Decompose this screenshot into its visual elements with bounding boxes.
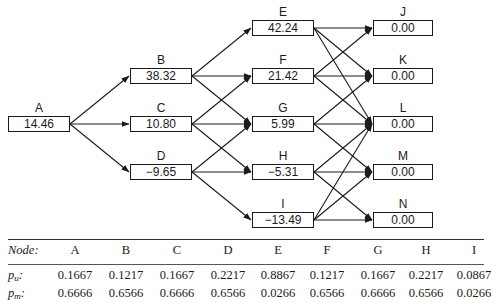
node-value: 0.00 (373, 20, 433, 36)
node-value: 0.00 (373, 212, 433, 228)
node-n: N 0.00 (373, 212, 433, 228)
node-d: D −9.65 (130, 164, 192, 180)
table-cell: 0.0266 (449, 286, 496, 301)
table-column-header: E (253, 243, 303, 258)
node-e: E 42.24 (252, 20, 314, 36)
table-divider (8, 264, 484, 265)
table-cell: 0.8867 (253, 268, 303, 283)
node-value: −13.49 (252, 212, 314, 228)
node-b: B 38.32 (130, 68, 192, 84)
node-value: 0.00 (373, 116, 433, 132)
table-cell: 0.6666 (353, 286, 403, 301)
table-cell: 0.0266 (253, 286, 303, 301)
node-label: F (252, 54, 314, 67)
node-label: M (373, 150, 433, 163)
node-label: B (130, 54, 192, 67)
table-cell: 0.6566 (401, 286, 451, 301)
node-l: L 0.00 (373, 116, 433, 132)
node-c: C 10.80 (130, 116, 192, 132)
node-label: C (130, 102, 192, 115)
table-cell: 0.1667 (50, 268, 100, 283)
node-label: I (252, 198, 314, 211)
node-value: 42.24 (252, 20, 314, 36)
table-row-pu: pu: 0.1667 0.1217 0.1667 0.2217 0.8867 0… (8, 268, 484, 285)
table-column-header: B (101, 243, 151, 258)
node-value: 10.80 (130, 116, 192, 132)
table-cell: 0.6566 (101, 286, 151, 301)
table-column-header: A (50, 243, 100, 258)
edge-arrow-d-i (192, 172, 251, 220)
node-g: G 5.99 (252, 116, 314, 132)
node-label: G (252, 102, 314, 115)
node-label: L (373, 102, 433, 115)
node-label: D (130, 150, 192, 163)
edge-arrow-a-b (70, 76, 129, 124)
node-h: H −5.31 (252, 164, 314, 180)
edge-arrow-a-d (70, 124, 129, 172)
table-cell: 0.1217 (101, 268, 151, 283)
table-cell: 0.6666 (152, 286, 202, 301)
node-a: A 14.46 (8, 116, 70, 132)
node-value: 0.00 (373, 164, 433, 180)
table-row-pm: pm: 0.6666 0.6566 0.6666 0.6566 0.0266 0… (8, 286, 484, 303)
node-label: J (373, 6, 433, 19)
table-cell: 0.1667 (353, 268, 403, 283)
edge-arrow-b-e (192, 28, 251, 76)
node-label: N (373, 198, 433, 211)
table-cell: 0.6566 (203, 286, 253, 301)
node-value: −9.65 (130, 164, 192, 180)
table-column-header: D (203, 243, 253, 258)
node-j: J 0.00 (373, 20, 433, 36)
row-label-pm: pm: (8, 286, 25, 301)
table-column-header: I (449, 243, 496, 258)
node-k: K 0.00 (373, 68, 433, 84)
trinomial-tree-diagram: A 14.46 B 38.32 C 10.80 D −9.65 E 42.24 … (0, 0, 486, 236)
table-column-header: G (353, 243, 403, 258)
node-label: A (8, 102, 70, 115)
node-label: H (252, 150, 314, 163)
node-i: I −13.49 (252, 212, 314, 228)
table-cell: 0.2217 (203, 268, 253, 283)
node-value: −5.31 (252, 164, 314, 180)
node-value: 21.42 (252, 68, 314, 84)
table-cell: 0.1217 (302, 268, 352, 283)
table-cell: 0.6566 (302, 286, 352, 301)
table-column-header: C (152, 243, 202, 258)
table-cell: 0.1667 (152, 268, 202, 283)
node-value: 5.99 (252, 116, 314, 132)
probability-table: Node: A B C D E F G H I pu: 0.1667 0.121… (8, 239, 484, 240)
node-label: E (252, 6, 314, 19)
table-column-header: H (401, 243, 451, 258)
node-m: M 0.00 (373, 164, 433, 180)
node-value: 38.32 (130, 68, 192, 84)
table-column-header: F (302, 243, 352, 258)
table-cell: 0.2217 (401, 268, 451, 283)
table-cell: 0.6666 (50, 286, 100, 301)
node-value: 14.46 (8, 116, 70, 132)
row-label-pu: pu: (8, 268, 23, 283)
node-label: K (373, 54, 433, 67)
node-value: 0.00 (373, 68, 433, 84)
table-cell: 0.0867 (449, 268, 496, 283)
table-header-label: Node: (8, 243, 39, 258)
node-f: F 21.42 (252, 68, 314, 84)
table-header-row: Node: A B C D E F G H I (8, 243, 484, 260)
